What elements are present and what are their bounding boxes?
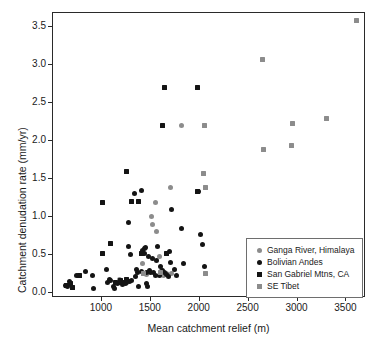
data-point <box>77 273 82 278</box>
data-point <box>132 191 137 196</box>
data-point <box>172 267 177 272</box>
data-point <box>169 207 174 212</box>
data-point <box>158 270 163 275</box>
x-axis-label: Mean catchment relief (m) <box>52 322 365 334</box>
data-point <box>203 185 208 190</box>
data-point <box>324 116 329 121</box>
data-point <box>108 241 113 246</box>
legend-item: SE Tibet <box>251 280 358 292</box>
data-point <box>70 285 75 290</box>
data-point <box>179 123 184 128</box>
y-tick-label: 3.0 <box>6 59 46 69</box>
x-tick-label: 3500 <box>322 303 368 313</box>
legend-circle-icon <box>257 248 262 253</box>
x-tick-mark <box>150 297 151 301</box>
x-tick-label: 1000 <box>78 303 124 313</box>
data-point <box>260 57 265 62</box>
data-point <box>168 185 173 190</box>
legend-label: San Gabriel Mtns, CA <box>267 269 349 279</box>
data-point <box>139 188 144 193</box>
data-point <box>289 143 294 148</box>
data-point <box>168 260 173 265</box>
legend-swatch-cell <box>251 284 267 289</box>
legend-circle-icon <box>257 260 262 265</box>
data-point <box>154 229 159 234</box>
data-point <box>203 271 208 276</box>
data-point <box>141 271 146 276</box>
data-point <box>143 245 148 250</box>
data-point <box>90 273 95 278</box>
x-tick-mark <box>101 297 102 301</box>
legend-square-icon <box>257 272 262 277</box>
data-point <box>181 261 186 266</box>
data-point <box>126 244 131 249</box>
data-point <box>153 200 158 205</box>
legend-swatch-cell <box>251 272 267 277</box>
x-tick-label: 2500 <box>225 303 271 313</box>
data-point <box>100 251 105 256</box>
legend-item: Bolivian Andes <box>251 256 358 268</box>
legend-label: Ganga River, Himalaya <box>267 245 354 255</box>
legend-item: San Gabriel Mtns, CA <box>251 268 358 280</box>
data-point <box>128 252 133 257</box>
data-point <box>136 199 141 204</box>
data-point <box>200 242 205 247</box>
data-point <box>166 274 171 279</box>
data-point <box>195 85 200 90</box>
data-point <box>124 169 129 174</box>
data-point <box>145 284 150 289</box>
data-point <box>91 286 96 291</box>
legend-square-icon <box>257 284 262 289</box>
data-point <box>179 226 184 231</box>
legend-item: Ganga River, Himalaya <box>251 244 358 256</box>
data-point <box>198 232 203 237</box>
data-point <box>195 189 200 194</box>
data-point <box>164 251 169 256</box>
data-point <box>100 200 105 205</box>
data-point <box>174 273 179 278</box>
data-point <box>104 267 109 272</box>
data-point <box>150 222 155 227</box>
data-point <box>202 264 207 269</box>
data-point <box>202 123 207 128</box>
data-point <box>154 258 159 263</box>
legend: Ganga River, HimalayaBolivian AndesSan G… <box>246 238 363 298</box>
x-tick-label: 3000 <box>274 303 320 313</box>
legend-swatch-cell <box>251 248 267 253</box>
data-point <box>261 147 266 152</box>
legend-label: Bolivian Andes <box>267 257 323 267</box>
data-point <box>136 284 141 289</box>
data-point <box>290 121 295 126</box>
data-point <box>354 18 359 23</box>
data-point <box>140 261 145 266</box>
data-point <box>155 244 160 249</box>
y-tick-label: 2.5 <box>6 97 46 107</box>
data-point <box>129 199 134 204</box>
data-point <box>126 220 131 225</box>
y-axis-label: Catchment denudation rate (mm/yr) <box>16 127 28 293</box>
data-point <box>201 171 206 176</box>
data-point <box>124 277 129 282</box>
data-point <box>133 274 138 279</box>
data-point <box>162 85 167 90</box>
y-tick-label: 3.5 <box>6 21 46 31</box>
scatter-plot-figure: 0.00.51.01.52.02.53.03.5 100015002000250… <box>0 0 381 345</box>
data-point <box>160 123 165 128</box>
data-point <box>112 286 117 291</box>
legend-label: SE Tibet <box>267 281 299 291</box>
data-point <box>149 214 154 219</box>
data-point <box>139 251 144 256</box>
data-point <box>83 269 88 274</box>
x-tick-mark <box>199 297 200 301</box>
x-tick-label: 1500 <box>127 303 173 313</box>
legend-swatch-cell <box>251 260 267 265</box>
x-tick-label: 2000 <box>176 303 222 313</box>
